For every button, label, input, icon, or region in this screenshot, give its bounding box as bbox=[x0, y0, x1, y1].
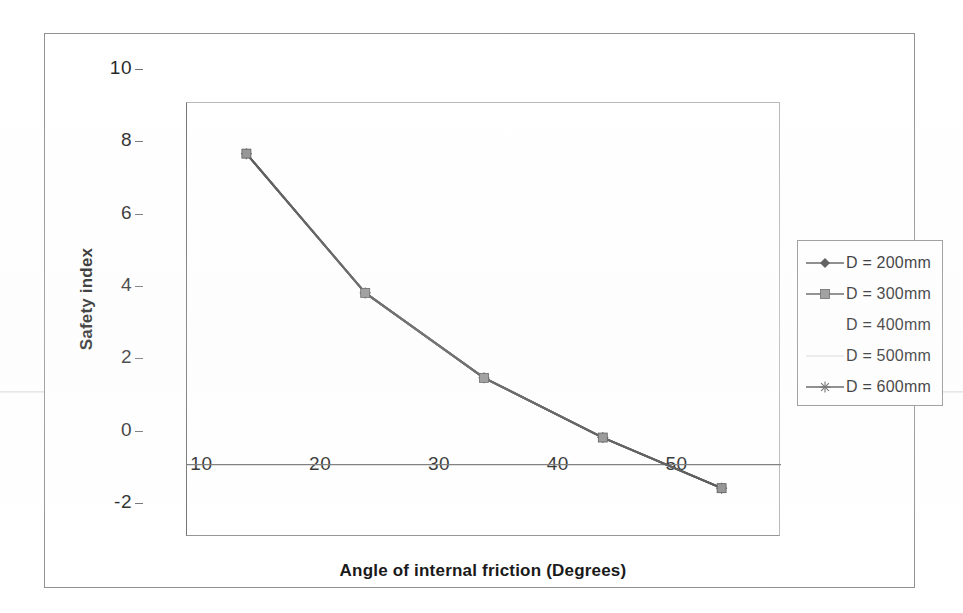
y-axis-tick-mark bbox=[135, 214, 143, 215]
legend: D = 200mmD = 300mmD = 400mmD = 500mmD = … bbox=[797, 240, 943, 406]
y-axis-tick-label: -2 bbox=[88, 491, 132, 513]
y-axis-tick-mark bbox=[135, 358, 143, 359]
y-axis-tick-mark bbox=[135, 431, 143, 432]
legend-item: D = 300mm bbox=[798, 278, 942, 309]
legend-item-label: D = 300mm bbox=[846, 285, 931, 303]
legend-item-label: D = 400mm bbox=[846, 316, 931, 334]
y-axis-tick-mark bbox=[135, 141, 143, 142]
legend-marker-square-icon bbox=[804, 285, 846, 303]
data-point-marker bbox=[717, 484, 726, 493]
series-line bbox=[246, 154, 721, 489]
x-axis-title: Angle of internal friction (Degrees) bbox=[186, 561, 780, 581]
y-axis-tick-mark bbox=[135, 286, 143, 287]
data-point-marker bbox=[820, 258, 830, 268]
y-axis-tick-mark bbox=[135, 69, 143, 70]
y-axis-tick-label: 10 bbox=[88, 57, 132, 79]
series-line bbox=[246, 154, 721, 489]
legend-marker-faint-icon bbox=[804, 347, 846, 365]
legend-item: D = 500mm bbox=[798, 340, 942, 371]
legend-item: D = 400mm bbox=[798, 309, 942, 340]
y-axis-tick-mark bbox=[135, 503, 143, 504]
y-axis-tick-label: 0 bbox=[88, 419, 132, 441]
legend-item-label: D = 500mm bbox=[846, 347, 931, 365]
plot-area bbox=[186, 102, 780, 536]
legend-marker-diamond-icon bbox=[804, 254, 846, 272]
series-line bbox=[246, 154, 721, 489]
data-point-marker bbox=[598, 433, 607, 442]
legend-item: D = 200mm bbox=[798, 247, 942, 278]
data-point-marker bbox=[242, 149, 251, 158]
series-line bbox=[246, 154, 721, 489]
legend-item: D = 600mm bbox=[798, 371, 942, 402]
series-line bbox=[246, 154, 721, 489]
legend-marker-none-icon bbox=[804, 316, 846, 334]
series-plot bbox=[187, 103, 781, 537]
data-point-marker bbox=[361, 288, 370, 297]
y-axis-tick-label: 8 bbox=[88, 129, 132, 151]
legend-marker-asterisk-icon bbox=[804, 378, 846, 396]
chart-outer-frame: 1086420-2 1020304050 Angle of internal f… bbox=[44, 33, 915, 588]
legend-item-label: D = 200mm bbox=[846, 254, 931, 272]
legend-item-label: D = 600mm bbox=[846, 378, 931, 396]
data-point-marker bbox=[480, 373, 489, 382]
data-point-marker bbox=[820, 381, 831, 392]
y-axis-title: Safety index bbox=[77, 209, 97, 389]
data-point-marker bbox=[821, 289, 830, 298]
